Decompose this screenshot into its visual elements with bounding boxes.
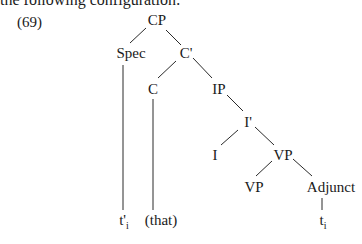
leaf-trace-prime-base: t' [119,212,126,228]
node-vp-upper: VP [273,148,292,163]
node-i: I [213,148,218,163]
node-adjunct: Adjunct [307,180,355,195]
leaf-trace-prime: t'i [119,213,129,229]
edge-cp-cbar [166,30,181,45]
edge-vp-adjunct [293,159,312,176]
node-cp: CP [148,13,166,28]
edge-ip-ibar [227,95,243,111]
node-ip: IP [212,82,225,97]
edge-ibar-vp [255,127,274,145]
tree-edges [0,0,362,244]
leaf-that: (that) [145,213,177,228]
leaf-trace-index: i [324,220,327,231]
leaf-trace: ti [320,213,327,229]
leaf-trace-prime-index: i [126,220,129,231]
edge-cp-spec [130,28,146,43]
node-ibar: I' [244,115,252,130]
edge-ibar-i [221,130,238,145]
node-spec: Spec [116,46,145,61]
node-vp-lower: VP [244,180,263,195]
node-cbar: C' [180,46,193,61]
node-c: C [148,82,158,97]
edge-vp-vp [256,161,272,176]
edge-cbar-ip [193,58,212,78]
edge-cbar-c [158,61,176,78]
